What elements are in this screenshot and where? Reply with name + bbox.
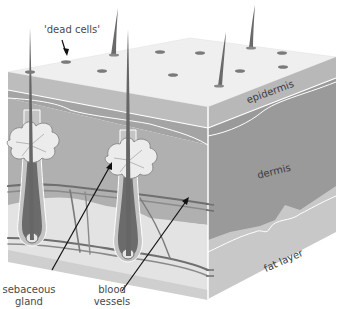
skin-diagram: 'dead cells' epidermis dermis fat layer … [0,0,341,309]
label-blood-vessels: blood vessels [90,284,134,308]
label-sebaceous-line2: gland [2,296,56,308]
label-sebaceous-line1: sebaceous [2,284,56,296]
label-blood-line2: vessels [90,296,134,308]
label-dead-cells: 'dead cells' [44,24,100,36]
label-sebaceous-gland: sebaceous gland [2,284,56,308]
label-blood-line1: blood [90,284,134,296]
